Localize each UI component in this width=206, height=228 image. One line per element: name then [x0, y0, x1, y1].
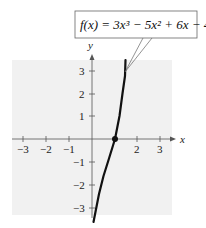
y-tick-label: 1 — [79, 110, 85, 122]
y-tick-label: −2 — [73, 179, 85, 191]
y-axis-arrow-icon — [90, 54, 95, 60]
x-axis-arrow-icon — [170, 137, 176, 142]
x-tick-label: −2 — [40, 143, 52, 155]
x-tick-label: −3 — [17, 143, 29, 155]
y-tick-label: 2 — [79, 88, 85, 100]
x-tick-label: 2 — [134, 143, 140, 155]
root-point — [112, 136, 118, 142]
equation-label: f(x) = 3x³ − 5x² + 6x − 4 — [80, 17, 206, 32]
y-tick-label: −1 — [73, 156, 85, 168]
x-axis-label: x — [179, 133, 185, 145]
y-axis-label: y — [87, 39, 93, 51]
y-tick-label: −3 — [73, 202, 85, 214]
x-tick-label: 3 — [157, 143, 163, 155]
x-tick-label: −1 — [63, 143, 75, 155]
function-graph: x y −3 −2 −1 2 3 3 2 1 −1 −2 −3 f(x) = 3… — [0, 0, 206, 228]
y-tick-label: 3 — [79, 65, 85, 77]
